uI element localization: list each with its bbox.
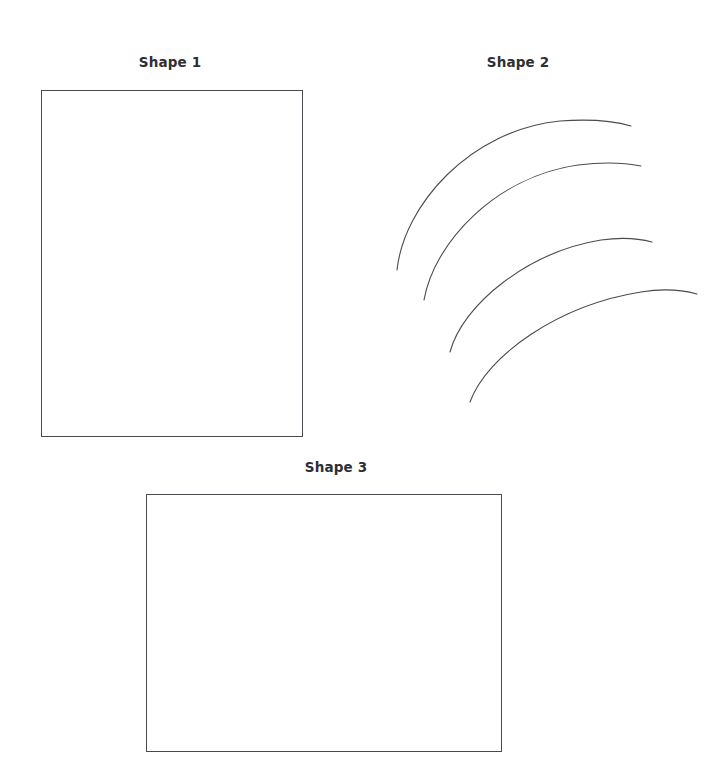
shape-2-arc-4 bbox=[470, 290, 697, 402]
shape-2-arc-group bbox=[380, 100, 710, 420]
shape-3-label: Shape 3 bbox=[305, 461, 367, 475]
shapes-canvas: Shape 1 Shape 2 Shape 3 bbox=[0, 0, 725, 760]
shape-1-label: Shape 1 bbox=[139, 56, 201, 70]
shape-2-arc-2 bbox=[424, 163, 641, 300]
shape-3-rectangle bbox=[146, 494, 502, 752]
shape-1-rectangle bbox=[41, 90, 303, 437]
shape-2-arc-1 bbox=[397, 120, 631, 270]
shape-2-label: Shape 2 bbox=[487, 56, 549, 70]
